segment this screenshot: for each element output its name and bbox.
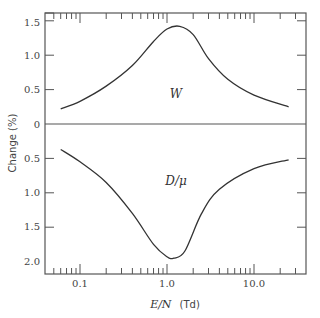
- x-tick-10.0: 10.0: [243, 278, 265, 289]
- y-tick-upper-1.0: 1.0: [24, 50, 40, 61]
- series-d-mu-label: D/μ: [164, 174, 187, 188]
- y-tick-lower-1.0: 1.0: [24, 187, 40, 198]
- x-axis-title-variable: E/N: [149, 298, 172, 311]
- x-axis-title-unit: (Td): [180, 299, 200, 310]
- y-tick-upper-0.5: 0.5: [24, 84, 40, 95]
- axis-ticks: [45, 0, 306, 274]
- chart: 1.5 1.0 0.5 0 0.5 1.0 1.5 2.0 0.1 1.0 10…: [0, 0, 320, 318]
- x-tick-0.1: 0.1: [72, 278, 88, 289]
- series-d-mu-line: [61, 149, 289, 258]
- plot-frame: [45, 13, 306, 274]
- y-tick-lower-2.0: 2.0: [24, 256, 40, 267]
- y-tick-upper-1.5: 1.5: [24, 17, 40, 28]
- y-tick-lower-0.5: 0.5: [24, 153, 40, 164]
- x-tick-1.0: 1.0: [159, 278, 175, 289]
- tick-labels: 1.5 1.0 0.5 0 0.5 1.0 1.5 2.0 0.1 1.0 10…: [24, 17, 265, 289]
- y-tick-zero: 0: [34, 119, 40, 130]
- series-w-label: W: [170, 87, 184, 101]
- y-tick-lower-1.5: 1.5: [24, 221, 40, 232]
- x-axis-title: E/N (Td): [149, 293, 200, 312]
- y-axis-title: Change (%): [7, 114, 18, 173]
